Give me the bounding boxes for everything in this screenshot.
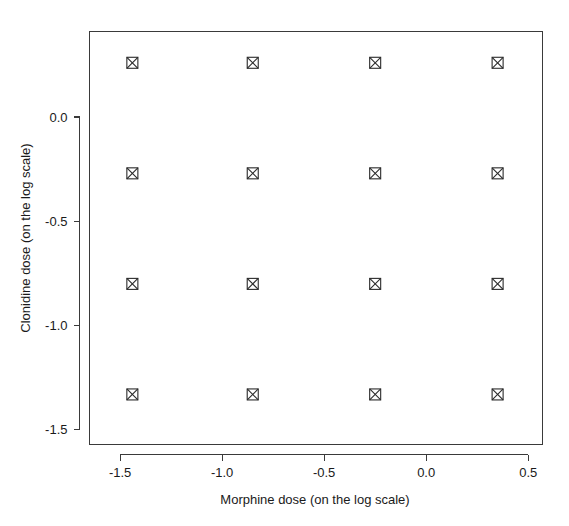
data-points xyxy=(127,57,503,400)
y-axis: 0.0-0.5-1.0-1.5 xyxy=(45,110,79,438)
x-tick-label: -1.0 xyxy=(211,465,233,480)
data-point-marker xyxy=(370,278,381,289)
y-tick-label: 0.0 xyxy=(49,110,67,125)
scatter-plot-canvas: -1.5-1.0-0.50.00.5 0.0-0.5-1.0-1.5 Morph… xyxy=(0,0,569,526)
data-point-marker xyxy=(127,389,138,400)
data-point-marker xyxy=(247,168,258,179)
data-point-marker xyxy=(492,168,503,179)
chart-figure: -1.5-1.0-0.50.00.5 0.0-0.5-1.0-1.5 Morph… xyxy=(0,0,569,526)
y-axis-title: Clonidine dose (on the log scale) xyxy=(18,143,33,332)
data-point-marker xyxy=(370,57,381,68)
x-axis-title: Morphine dose (on the log scale) xyxy=(220,492,409,507)
y-tick-label: -1.5 xyxy=(45,422,67,437)
x-tick-label: -1.5 xyxy=(109,465,131,480)
x-tick-label: 0.0 xyxy=(417,465,435,480)
data-point-marker xyxy=(247,57,258,68)
data-point-marker xyxy=(492,57,503,68)
y-tick-label: -0.5 xyxy=(45,214,67,229)
plot-frame xyxy=(90,32,543,445)
data-point-marker xyxy=(127,168,138,179)
data-point-marker xyxy=(370,389,381,400)
data-point-marker xyxy=(492,389,503,400)
data-point-marker xyxy=(127,57,138,68)
x-axis: -1.5-1.0-0.50.00.5 xyxy=(109,455,537,480)
data-point-marker xyxy=(370,168,381,179)
x-tick-label: -0.5 xyxy=(313,465,335,480)
data-point-marker xyxy=(247,389,258,400)
x-tick-label: 0.5 xyxy=(519,465,537,480)
data-point-marker xyxy=(127,278,138,289)
data-point-marker xyxy=(247,278,258,289)
data-point-marker xyxy=(492,278,503,289)
y-tick-label: -1.0 xyxy=(45,318,67,333)
